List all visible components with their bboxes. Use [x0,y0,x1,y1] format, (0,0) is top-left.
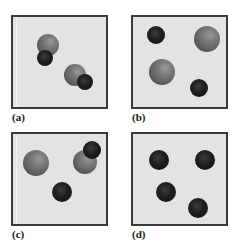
panel-d [131,132,228,226]
dark-sphere [37,50,53,66]
dark-sphere [195,150,215,170]
panel-label-b: (b) [132,112,145,123]
dark-sphere [52,182,72,202]
grey-sphere [23,150,49,176]
dark-sphere [149,150,169,170]
grey-sphere [149,59,175,85]
panel-label-a: (a) [12,112,25,123]
dark-sphere [83,141,101,159]
scan-artifact-line [16,134,17,224]
panel-a [11,15,108,109]
panel-b [131,15,228,109]
dark-sphere [77,74,93,90]
scan-artifact-line [16,17,17,107]
grey-sphere [194,26,220,52]
panel-label-c: (c) [12,229,24,240]
dark-sphere [190,79,208,97]
dark-sphere [156,182,176,202]
dark-sphere [188,198,208,218]
dark-sphere [147,26,165,44]
panel-c [11,132,108,226]
panel-label-d: (d) [132,229,145,240]
